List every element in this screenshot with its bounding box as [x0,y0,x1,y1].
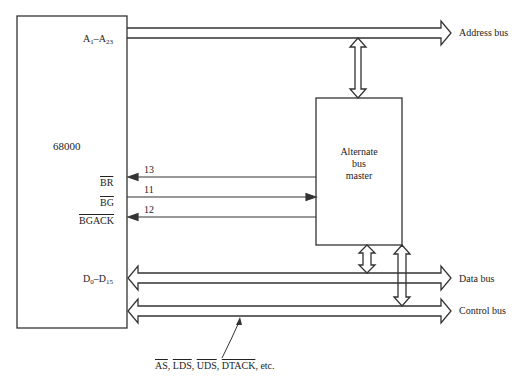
address-bus-arrow [127,21,451,45]
address-pin-to: 23 [106,38,113,46]
control-signals-pointer [222,322,239,358]
dtack-signal: DTACK [222,360,256,371]
br-arrowhead-icon [128,174,138,181]
master-label-line1: Alternate [316,146,402,158]
bgack-line-number: 12 [144,204,154,216]
control-bus-label: Control bus [459,305,506,317]
etc-suffix: , etc. [255,360,274,371]
bg-line-number: 11 [144,184,154,196]
alternate-master-label: Alternate bus master [316,146,402,182]
uds-signal: UDS [197,360,217,371]
data-pin-to: 15 [106,278,113,286]
br-text: BR [100,177,113,188]
bgack-label: BGACK [79,215,114,227]
bgack-text: BGACK [79,215,114,226]
bus-arbitration-diagram [0,0,524,391]
bgack-arrowhead-icon [128,214,138,221]
data-pins-label: D0–D15 [83,273,113,288]
address-pin-base-2: A [99,33,106,44]
lds-signal: LDS [173,360,192,371]
control-pointer-arrowhead-icon [236,317,242,325]
br-line-number: 13 [144,164,154,176]
bg-label: BG [100,197,114,209]
master-label-line3: master [316,170,402,182]
bg-text: BG [100,197,114,208]
address-bus-label: Address bus [459,27,508,39]
master-label-line2: bus [316,158,402,170]
br-label: BR [100,177,113,189]
cpu-name-label: 68000 [53,140,81,152]
master-data-link-arrow [359,245,375,273]
as-signal: AS [155,360,168,371]
master-control-link-arrow [394,245,410,306]
data-bus-arrow [128,266,451,290]
master-address-link-arrow [350,38,366,98]
control-bus-arrow [128,299,451,323]
data-bus-label: Data bus [459,273,494,285]
bg-arrowhead-icon [306,194,316,201]
control-signals-label: AS, LDS, UDS, DTACK, etc. [155,360,275,372]
address-pins-label: A1–A23 [83,33,113,48]
data-pin-base-2: D [99,273,106,284]
